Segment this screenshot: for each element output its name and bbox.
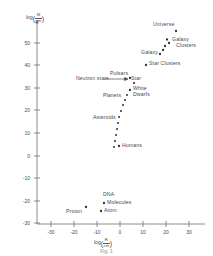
y-tick-label: 40 [16, 62, 30, 68]
track-point [118, 116, 120, 118]
label-proton: Proton [66, 209, 82, 215]
track-point [115, 134, 117, 136]
point-galaxy-clusters-d [162, 49, 164, 51]
label-asteroids: Asteroids [93, 115, 116, 121]
track-point [122, 104, 124, 106]
label-humans: Humans [122, 143, 142, 149]
label-neutron-stars: Neutron stars [76, 76, 109, 82]
x-tick-label: 20 [159, 229, 173, 235]
point-galaxy-clusters-b [164, 45, 166, 47]
y-tick-label: 0 [16, 153, 30, 159]
x-axis-label-log: log [94, 239, 101, 245]
label-star-clusters: Star Clusters [149, 61, 181, 67]
track-point [120, 110, 122, 112]
y-axis-label-den: gm [35, 19, 42, 24]
point-atom [100, 210, 102, 212]
point-molecules [103, 202, 105, 204]
y-tick-label: -20 [16, 198, 30, 204]
y-tick-label: -30 [16, 220, 30, 226]
point-galaxy-clusters-c [166, 38, 168, 40]
mass-radius-diagram: 50 40 30 20 10 0 -10 -20 -30 -30 -20 -10… [0, 0, 213, 256]
track-point [113, 146, 115, 148]
label-planets: Planets [103, 93, 121, 99]
label-white-dwarfs-line2: Dwarfs [133, 92, 150, 98]
track-point [114, 140, 116, 142]
y-axis-label: log(Mgm) [26, 13, 44, 23]
x-axis-label: log(Rcm) [94, 238, 112, 248]
point-white-dwarfs [129, 89, 131, 91]
point-star-clusters [145, 64, 147, 66]
label-star: Star [131, 76, 141, 82]
y-tick-label: 10 [16, 130, 30, 136]
label-galaxy: Galaxy [141, 50, 158, 56]
x-tick-label: -20 [67, 229, 81, 235]
label-universe: Universe [153, 22, 174, 28]
point-galaxy-clusters-a [168, 42, 170, 44]
x-tick-label: 30 [182, 229, 196, 235]
track-point [117, 122, 119, 124]
label-galaxy-clusters-line2: Clusters [176, 43, 196, 49]
y-tick-label: 30 [16, 85, 30, 91]
x-tick-label: -10 [90, 229, 104, 235]
y-tick-label: 50 [16, 40, 30, 46]
point-proton [85, 206, 87, 208]
y-axis-label-log: log [26, 14, 33, 20]
y-tick-label: 20 [16, 107, 30, 113]
label-pulsars: Pulsars [110, 71, 128, 77]
track-point [116, 128, 118, 130]
point-star-b [133, 82, 135, 84]
x-tick-label: 0 [113, 229, 127, 235]
track-point [126, 94, 128, 96]
y-tick-label: -10 [16, 175, 30, 181]
figure-caption: Fig. 1 [0, 248, 213, 254]
label-atom: Atom [104, 208, 117, 214]
x-tick-label: 10 [136, 229, 150, 235]
track-point [124, 99, 126, 101]
label-molecules: Molecules [107, 200, 131, 206]
point-universe [175, 30, 177, 32]
point-galaxy [159, 53, 161, 55]
x-tick-label: -30 [44, 229, 58, 235]
point-humans [118, 145, 120, 147]
data-points [85, 30, 177, 212]
label-dna: DNA [103, 192, 114, 198]
